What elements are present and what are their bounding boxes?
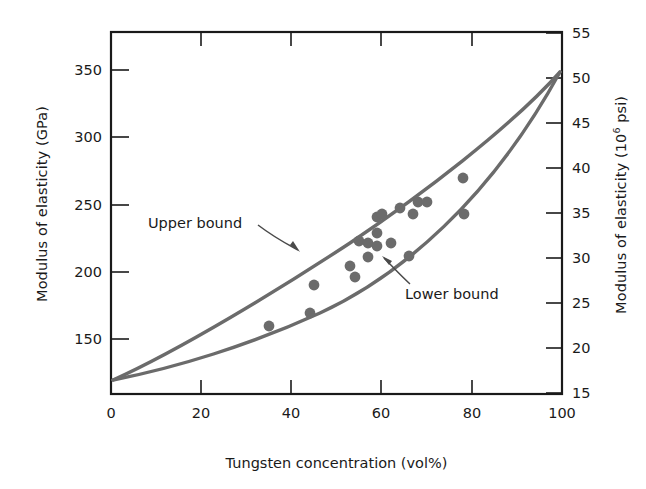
- x-tick-label: 0: [81, 406, 141, 421]
- y-tick-label-left: 250: [42, 198, 102, 213]
- right-tick-marks: [546, 33, 562, 393]
- data-point: [404, 251, 415, 262]
- data-point: [422, 197, 433, 208]
- data-point: [309, 280, 320, 291]
- lower-bound-annotation: Lower bound: [405, 287, 499, 302]
- x-tick-label: 100: [532, 406, 592, 421]
- y-tick-label-right: 40: [572, 161, 632, 176]
- y-tick-label-right: 25: [572, 296, 632, 311]
- data-point: [408, 209, 419, 220]
- y-tick-label-left: 200: [42, 265, 102, 280]
- data-point: [372, 241, 383, 252]
- x-tick-label: 20: [171, 406, 231, 421]
- y-tick-label-right: 15: [572, 386, 632, 401]
- bottom-tick-marks: [201, 380, 472, 394]
- upper-bound-annotation: Upper bound: [148, 216, 242, 231]
- data-point: [350, 272, 361, 283]
- data-point: [354, 236, 365, 247]
- data-point: [395, 203, 406, 214]
- x-tick-label: 60: [351, 406, 411, 421]
- data-point: [458, 173, 469, 184]
- y-tick-label-right: 55: [572, 26, 632, 41]
- top-tick-marks: [201, 32, 472, 46]
- data-point: [377, 209, 388, 220]
- chart-figure: Modulus of elasticity (GPa) Modulus of e…: [0, 0, 646, 489]
- y-tick-label-right: 20: [572, 341, 632, 356]
- y-tick-label-right: 35: [572, 206, 632, 221]
- left-tick-marks: [111, 70, 129, 339]
- y-tick-label-left: 350: [42, 63, 102, 78]
- axis-frame: [111, 32, 562, 394]
- data-point: [372, 228, 383, 239]
- y-tick-label-right: 50: [572, 71, 632, 86]
- data-point: [264, 321, 275, 332]
- y-tick-label-left: 300: [42, 130, 102, 145]
- data-point: [363, 252, 374, 263]
- x-tick-label: 80: [442, 406, 502, 421]
- data-point: [345, 261, 356, 272]
- y-tick-label-right: 45: [572, 116, 632, 131]
- data-point: [386, 238, 397, 249]
- x-tick-label: 40: [261, 406, 321, 421]
- y-tick-label-left: 150: [42, 332, 102, 347]
- y-tick-label-right: 30: [572, 251, 632, 266]
- data-points: [264, 173, 470, 332]
- data-point: [459, 209, 470, 220]
- plot-border: [111, 32, 562, 394]
- data-point: [305, 308, 316, 319]
